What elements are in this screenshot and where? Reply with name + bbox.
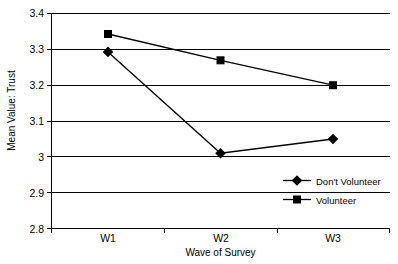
data-point-volunteer-w1 bbox=[104, 30, 112, 38]
y-tick-label-3: 3 bbox=[0, 152, 44, 162]
legend-label-dont-volunteer: Don't Volunteer bbox=[316, 176, 381, 187]
y-tick-label-2.8: 2.8 bbox=[0, 224, 44, 234]
data-point-volunteer-w3 bbox=[329, 81, 337, 89]
y-tick-label-2.9: 2.9 bbox=[0, 188, 44, 198]
x-tick-label-w3: W3 bbox=[303, 232, 363, 244]
y-tick-marks bbox=[47, 14, 51, 229]
legend-label-volunteer: Volunteer bbox=[316, 195, 356, 206]
y-tick-label-3.4: 3.4 bbox=[0, 8, 44, 18]
y-tick-label-3.3: 3.3 bbox=[0, 44, 44, 54]
y-tick-label-3.2: 3.2 bbox=[0, 80, 44, 90]
chart-canvas bbox=[0, 0, 398, 264]
x-tick-label-w1: W1 bbox=[78, 232, 138, 244]
x-axis-label: Wave of Survey bbox=[51, 247, 390, 258]
data-point-volunteer-w2 bbox=[217, 56, 225, 64]
data-point-dont-volunteer-w3 bbox=[328, 134, 339, 145]
legend-marker-dont-volunteer bbox=[283, 175, 311, 186]
line-chart: Mean Value: Trust 3.4 3.3 3.2 3.1 3 2.9 … bbox=[0, 0, 398, 264]
legend-marker-volunteer bbox=[283, 196, 311, 204]
x-tick-label-w2: W2 bbox=[191, 232, 251, 244]
y-tick-label-3.1: 3.1 bbox=[0, 116, 44, 126]
